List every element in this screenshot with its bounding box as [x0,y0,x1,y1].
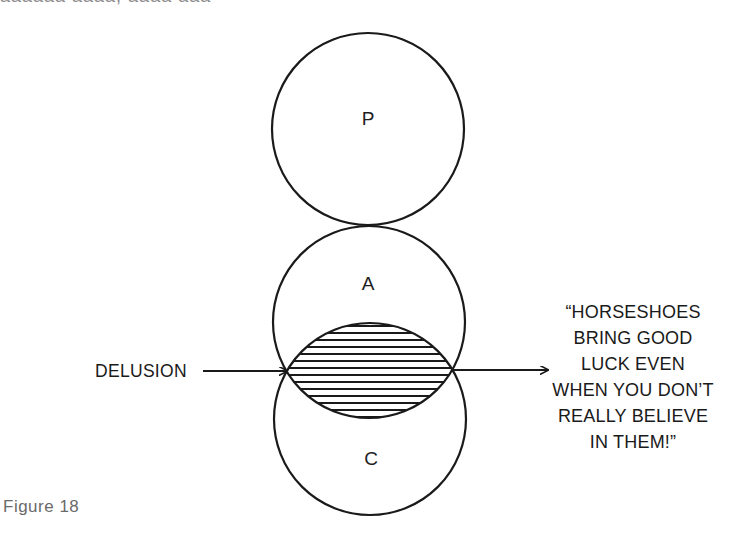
quote-line: WHEN YOU DON’T [533,377,733,403]
quote-line: LUCK EVEN [533,351,733,377]
quote-line: “HORSESHOES [533,299,733,325]
delusion-label: DELUSION [95,361,187,382]
label-p: P [362,108,375,130]
figure-canvas: aaaaaa aaaa, aaaa aaa P A C DELUSIO [0,0,749,543]
horseshoe-quote: “HORSESHOES BRING GOOD LUCK EVEN WHEN YO… [533,299,733,455]
quote-line: IN THEM!” [533,429,733,455]
label-a: A [362,273,375,295]
figure-caption: Figure 18 [3,497,79,517]
label-c: C [364,448,378,470]
delusion-overlap-hatching [270,326,470,417]
quote-line: REALLY BELIEVE [533,403,733,429]
quote-line: BRING GOOD [533,325,733,351]
